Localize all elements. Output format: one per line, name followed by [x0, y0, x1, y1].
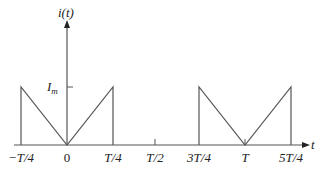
- waveform-diagram: i(t) t Im −T/4 0 T/4 T/2 3T/4 T 5T/4: [0, 0, 320, 170]
- x-axis-label: t: [311, 137, 315, 152]
- y-axis-label: i(t): [58, 5, 74, 20]
- tick-label-period: T: [241, 150, 249, 165]
- tick-label-half: T/2: [146, 150, 164, 165]
- tick-label-three-quarter: 3T/4: [186, 150, 211, 165]
- tick-label-zero: 0: [64, 150, 71, 165]
- tick-label-five-quarter: 5T/4: [279, 150, 303, 165]
- tick-label-neg-quarter: −T/4: [8, 150, 35, 165]
- tick-label-quarter: T/4: [104, 150, 122, 165]
- waveform-pulse-2: [199, 87, 291, 145]
- amplitude-label: Im: [46, 79, 58, 96]
